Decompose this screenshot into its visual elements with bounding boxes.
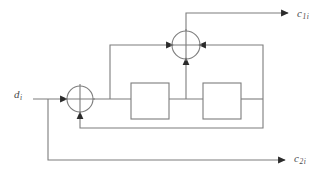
output-label-c2: c2i [294,153,306,166]
input-label-d: di [14,89,22,102]
output-label-c1: c1i [297,8,309,21]
input-adder-crosshair [65,84,95,114]
output-c1-subscript-index: i [306,12,309,21]
diagram-canvas: di c1i c2i [0,0,327,178]
diagram-svg [0,0,327,178]
wire-left-tap-to-output-adder [110,45,173,99]
delay-block-1 [131,83,169,119]
delay-block-2 [203,83,241,119]
input-label-base: d [14,88,20,100]
input-label-subscript: i [20,93,23,102]
wire-feedback-to-input-adder [80,99,263,128]
wire-output-adder-to-c1 [186,13,288,31]
wire-right-bus-to-output-adder [199,45,263,99]
output-c2-subscript-index: i [303,157,306,166]
output-adder-crosshair [170,29,202,61]
wire-input-tap-to-c2 [48,99,285,160]
